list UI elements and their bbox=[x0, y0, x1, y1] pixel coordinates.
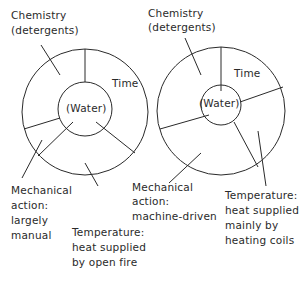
left-chemistry-leader bbox=[41, 45, 60, 75]
left-temperature-label-2: heat supplied bbox=[72, 241, 146, 253]
left-temperature-label-3: by open fire bbox=[72, 256, 137, 268]
left-chemistry-label-1: Chemistry bbox=[11, 9, 67, 21]
right-mechanical-leader bbox=[169, 153, 201, 183]
left-mechanical-label-4: manual bbox=[11, 229, 52, 241]
left-divider-left bbox=[24, 118, 60, 129]
right-mechanical-label-1: Mechanical bbox=[132, 181, 193, 193]
left-mechanical-label-1: Mechanical bbox=[11, 184, 72, 196]
right-time-label: Time bbox=[233, 67, 261, 79]
left-temperature-label-1: Temperature: bbox=[71, 226, 144, 238]
left-mechanical-label-3: largely bbox=[11, 214, 48, 226]
left-mechanical-label-2: action: bbox=[11, 199, 48, 211]
right-mechanical-label-2: action: bbox=[132, 195, 169, 207]
right-temperature-label-1: Temperature: bbox=[224, 189, 297, 201]
left-water-label: (Water) bbox=[66, 102, 107, 114]
washing-factors-diagram: Chemistry (detergents) Time (Water) Mech… bbox=[0, 0, 303, 290]
left-chemistry-label-2: (detergents) bbox=[11, 24, 79, 36]
right-temperature-leader bbox=[258, 131, 266, 186]
right-mechanical-label-3: machine-driven bbox=[132, 210, 217, 222]
right-temperature-label-3: mainly by bbox=[225, 219, 278, 231]
right-divider-left bbox=[160, 115, 209, 129]
left-divider-lower-right bbox=[96, 122, 135, 153]
left-circle-diagram: Chemistry (detergents) Time (Water) Mech… bbox=[11, 9, 148, 268]
right-divider-lower bbox=[234, 122, 258, 167]
right-divider-right bbox=[240, 87, 283, 102]
right-chemistry-label-1: Chemistry bbox=[148, 7, 204, 19]
left-divider-lower-left bbox=[38, 122, 73, 156]
right-circle-diagram: Chemistry (detergents) Time (Water) Mech… bbox=[132, 7, 299, 246]
right-temperature-label-4: heating coils bbox=[225, 234, 294, 246]
right-temperature-label-2: heat supplied bbox=[225, 204, 299, 216]
right-water-label: (Water) bbox=[199, 97, 240, 109]
right-chemistry-label-2: (detergents) bbox=[148, 21, 216, 33]
left-time-label: Time bbox=[111, 77, 139, 89]
